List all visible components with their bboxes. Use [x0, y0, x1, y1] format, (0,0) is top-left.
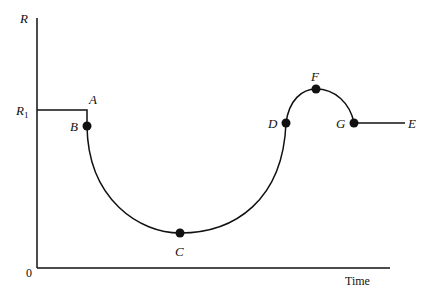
point-e-label: E	[407, 116, 416, 131]
y-axis-label: R	[19, 11, 28, 26]
point-a-label: A	[88, 92, 97, 107]
origin-label: 0	[26, 266, 32, 280]
point-d-marker	[282, 119, 291, 128]
point-c-label: C	[175, 244, 184, 259]
r1-level-line	[37, 110, 87, 126]
point-g-label: G	[336, 116, 346, 131]
point-f-label: F	[310, 69, 320, 84]
point-g-marker	[350, 119, 359, 128]
point-d-label: D	[267, 116, 278, 131]
point-b-label: B	[70, 119, 78, 134]
diagram-canvas: R R1 0 Time A B C D F G E	[0, 0, 435, 299]
r1-label: R1	[15, 103, 28, 120]
curve-b-c-d	[87, 123, 286, 233]
point-b-marker	[83, 122, 92, 131]
point-c-marker	[176, 229, 185, 238]
x-axis-label: Time	[345, 274, 370, 288]
point-f-marker	[312, 85, 321, 94]
